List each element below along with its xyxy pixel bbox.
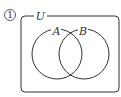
index-marker: 1	[5, 10, 16, 21]
universe-label: U	[36, 10, 46, 23]
venn-diagram: 1 U A B	[0, 0, 121, 97]
universe-rectangle	[21, 16, 119, 92]
index-number: 1	[7, 10, 13, 20]
set-a-label: A	[52, 25, 61, 38]
set-b-label: B	[78, 25, 87, 38]
